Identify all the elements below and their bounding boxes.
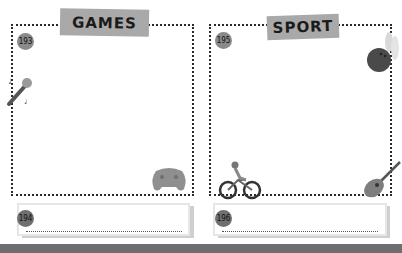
games-top-badge: 193 [17,33,34,50]
game-controller-icon [150,165,188,195]
cyclist-icon [218,160,262,200]
svg-text:♩: ♩ [24,96,33,106]
badge-number: 193 [19,37,33,46]
svg-text:♩: ♩ [8,75,18,86]
games-answer-badge: 194 [17,210,34,227]
games-answer-line [26,231,182,232]
badge-number: 195 [217,36,231,45]
bowling-icon [365,30,402,75]
games-title: GAMES [72,13,137,32]
sport-title: SPORT [272,17,333,37]
guitar-icon [360,160,402,200]
sport-answer-badge: 196 [215,210,232,227]
bottom-bar [0,244,402,253]
microphone-icon: ♩ ♩ [5,72,35,107]
sport-top-badge: 195 [215,32,232,49]
badge-number: 196 [217,214,231,223]
sport-title-banner: SPORT [267,14,340,40]
sport-answer-line [222,231,378,232]
badge-number: 194 [19,214,33,223]
games-title-banner: GAMES [60,8,149,37]
